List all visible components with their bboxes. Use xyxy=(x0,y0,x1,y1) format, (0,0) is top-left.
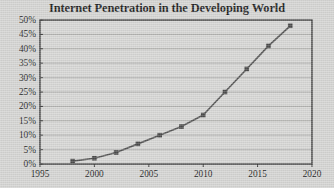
y-axis-tick-label: 10% xyxy=(2,130,36,140)
data-point-marker xyxy=(288,23,293,28)
y-axis-tick-label: 35% xyxy=(2,58,36,68)
x-axis-tick-label: 2000 xyxy=(85,169,104,179)
data-point-marker xyxy=(114,150,119,155)
y-axis-tick-label: 15% xyxy=(2,116,36,126)
x-axis-tick-label: 2020 xyxy=(303,169,322,179)
data-point-marker xyxy=(136,142,141,147)
y-axis-tick-label: 5% xyxy=(2,145,36,155)
data-point-marker xyxy=(223,90,228,95)
data-point-marker xyxy=(266,44,271,49)
data-point-marker xyxy=(70,159,75,164)
y-axis-tick-label: 40% xyxy=(2,44,36,54)
y-axis-tick-label: 45% xyxy=(2,29,36,39)
data-point-marker xyxy=(201,113,206,118)
x-axis-tick-label: 2015 xyxy=(248,169,267,179)
data-point-marker xyxy=(92,156,97,161)
data-point-marker xyxy=(179,124,184,129)
data-point-marker xyxy=(157,133,162,138)
x-axis-tick-label: 1995 xyxy=(31,169,50,179)
y-axis-tick-label: 20% xyxy=(2,101,36,111)
y-axis-tick-label: 0% xyxy=(2,159,36,169)
x-axis-tick-label: 2005 xyxy=(140,169,159,179)
y-axis-tick-label: 25% xyxy=(2,87,36,97)
y-axis-tick-label: 50% xyxy=(2,15,36,25)
chart-container: Internet Penetration in the Developing W… xyxy=(0,0,334,188)
data-point-marker xyxy=(244,67,249,72)
y-axis-tick-label: 30% xyxy=(2,73,36,83)
line-chart-plot xyxy=(0,0,334,188)
x-axis-tick-label: 2010 xyxy=(194,169,213,179)
